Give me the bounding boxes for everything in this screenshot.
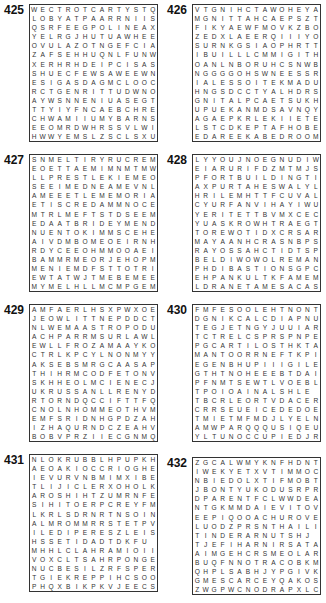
- grid-letter: D: [193, 494, 201, 503]
- grid-letter: A: [261, 41, 269, 50]
- grid-letter: L: [303, 585, 311, 594]
- grid-letter: L: [55, 210, 63, 219]
- grid-letter: I: [218, 513, 226, 522]
- grid-letter: V: [55, 432, 63, 441]
- grid-letter: C: [252, 237, 260, 246]
- grid-letter: R: [278, 540, 286, 549]
- grid-letter: G: [218, 69, 226, 78]
- grid-letter: N: [140, 369, 148, 378]
- grid-letter: I: [123, 546, 131, 555]
- grid-letter: S: [132, 132, 140, 141]
- grid-letter: P: [115, 414, 123, 423]
- grid-letter: N: [261, 531, 269, 540]
- grid-letter: X: [218, 32, 226, 41]
- grid-letter: E: [261, 155, 269, 164]
- grid-letter: K: [227, 105, 235, 114]
- grid-letter: T: [89, 491, 97, 500]
- grid-letter: S: [269, 105, 277, 114]
- grid-letter: T: [72, 555, 80, 564]
- grid-letter: U: [47, 41, 55, 50]
- grid-letter: M: [123, 219, 131, 228]
- grid-letter: T: [210, 432, 218, 441]
- grid-letter: N: [89, 96, 97, 105]
- grid-letter: L: [55, 341, 63, 350]
- grid-letter: N: [115, 510, 123, 519]
- grid-letter: O: [132, 369, 140, 378]
- grid-letter: E: [47, 164, 55, 173]
- grid-letter: R: [106, 14, 114, 23]
- grid-letter: P: [30, 582, 38, 591]
- grid-letter: W: [235, 255, 243, 264]
- grid-letter: A: [30, 332, 38, 341]
- grid-letter: G: [252, 323, 260, 332]
- grid-letter: I: [218, 210, 226, 219]
- grid-letter: N: [132, 555, 140, 564]
- grid-letter: W: [140, 332, 148, 341]
- grid-letter: N: [210, 314, 218, 323]
- grid-letter: D: [72, 123, 80, 132]
- grid-letter: S: [227, 78, 235, 87]
- grid-letter: C: [252, 50, 260, 59]
- grid-letter: H: [132, 32, 140, 41]
- grid-letter: O: [235, 69, 243, 78]
- grid-letter: C: [227, 576, 235, 585]
- grid-letter: I: [252, 78, 260, 87]
- grid-letter: T: [81, 173, 89, 182]
- grid-letter: R: [235, 423, 243, 432]
- grid-letter: C: [261, 14, 269, 23]
- grid-letter: G: [55, 78, 63, 87]
- puzzle-number: 429: [4, 303, 24, 317]
- grid-letter: E: [115, 255, 123, 264]
- puzzle-number: 425: [4, 3, 24, 17]
- grid-letter: H: [123, 255, 131, 264]
- grid-letter: U: [106, 32, 114, 41]
- grid-letter: R: [218, 164, 226, 173]
- grid-letter: L: [55, 546, 63, 555]
- grid-letter: E: [312, 123, 320, 132]
- grid-letter: O: [81, 246, 89, 255]
- grid-letter: E: [64, 132, 72, 141]
- grid-letter: U: [295, 96, 303, 105]
- grid-letter: H: [47, 332, 55, 341]
- grid-letter: W: [123, 305, 131, 314]
- grid-letter: N: [89, 423, 97, 432]
- grid-letter: L: [295, 387, 303, 396]
- grid-letter: P: [140, 519, 148, 528]
- grid-letter: T: [252, 558, 260, 567]
- grid-letter: O: [286, 378, 294, 387]
- grid-letter: P: [106, 60, 114, 69]
- grid-letter: T: [72, 14, 80, 23]
- grid-letter: W: [201, 467, 209, 476]
- grid-letter: L: [81, 482, 89, 491]
- grid-letter: R: [252, 531, 260, 540]
- grid-letter: T: [295, 246, 303, 255]
- grid-letter: F: [106, 369, 114, 378]
- grid-letter: H: [30, 132, 38, 141]
- grid-letter: I: [30, 473, 38, 482]
- grid-letter: H: [286, 341, 294, 350]
- grid-letter: M: [30, 210, 38, 219]
- grid-letter: J: [115, 582, 123, 591]
- grid-letter: I: [295, 522, 303, 531]
- grid-letter: T: [64, 537, 72, 546]
- grid-letter: L: [244, 476, 252, 485]
- grid-letter: Q: [64, 423, 72, 432]
- grid-letter: M: [149, 255, 157, 264]
- grid-letter: I: [295, 567, 303, 576]
- grid-letter: E: [295, 114, 303, 123]
- grid-letter: H: [55, 60, 63, 69]
- grid-letter: I: [252, 405, 260, 414]
- grid-letter: D: [269, 485, 277, 494]
- grid-letter: E: [81, 200, 89, 209]
- grid-letter: O: [227, 387, 235, 396]
- grid-letter: Y: [193, 219, 201, 228]
- grid-letter: N: [123, 200, 131, 209]
- grid-letter: I: [278, 467, 286, 476]
- grid-letter: I: [72, 582, 80, 591]
- grid-letter: K: [210, 23, 218, 32]
- grid-letter: W: [269, 5, 277, 14]
- grid-letter: S: [269, 182, 277, 191]
- grid-letter: T: [235, 323, 243, 332]
- grid-letter: T: [64, 500, 72, 509]
- grid-letter: N: [38, 405, 46, 414]
